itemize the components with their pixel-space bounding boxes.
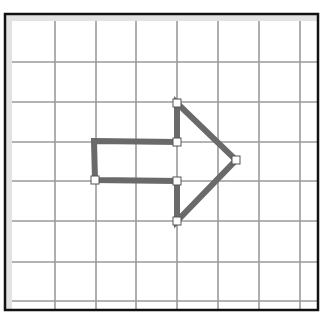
arrow-shape[interactable] (94, 103, 236, 221)
vertex-handle[interactable] (173, 99, 181, 107)
vertex-handle[interactable] (173, 217, 181, 225)
frame-border (5, 14, 318, 310)
vertex-handle[interactable] (173, 138, 181, 146)
vertex-handle[interactable] (173, 177, 181, 185)
vertex-handle[interactable] (91, 176, 99, 184)
diagram-canvas[interactable] (0, 0, 328, 321)
vertex-handle[interactable] (232, 156, 240, 164)
frame-inner-strip (6, 15, 317, 309)
grid-lines (12, 21, 318, 310)
